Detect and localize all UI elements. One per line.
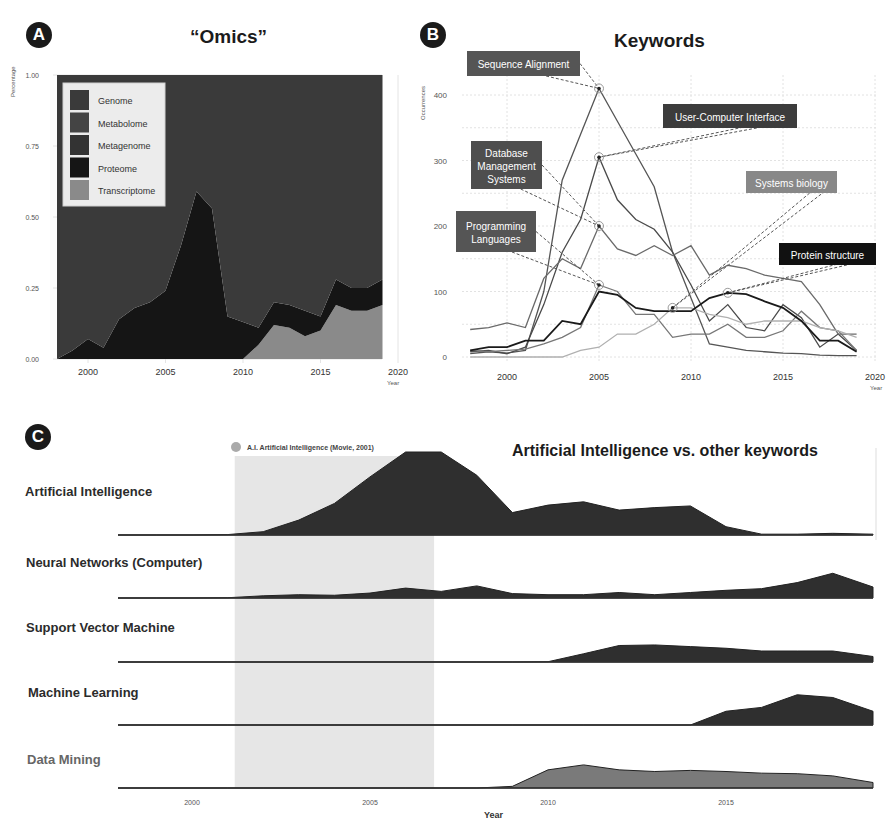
x-tick-label: 2005: [362, 799, 378, 806]
x-tick-label: 2015: [718, 799, 734, 806]
ridge-area-artificial-intelligence: [118, 452, 873, 535]
row-label-data-mining: Data Mining: [27, 752, 101, 767]
row-label-neural-networks: Neural Networks (Computer): [26, 555, 202, 570]
x-axis-label: Year: [484, 810, 504, 820]
ridge-area-machine-learning: [118, 695, 873, 725]
panel-c-title: Artificial Intelligence vs. other keywor…: [512, 442, 818, 460]
ai-keywords-ridgeline-chart: A.I. Artificial Intelligence (Movie, 200…: [0, 0, 896, 832]
movie-annotation-label: A.I. Artificial Intelligence (Movie, 200…: [247, 444, 374, 452]
row-label-artificial-intelligence: Artificial Intelligence: [25, 484, 152, 499]
row-label-machine-learning: Machine Learning: [28, 685, 139, 700]
ridge-area-data-mining: [118, 765, 873, 788]
movie-marker-dot: [231, 442, 241, 452]
ridge-area-neural-networks-computer: [118, 573, 873, 598]
x-tick-label: 2010: [540, 799, 556, 806]
ridge-area-support-vector-machine: [118, 645, 873, 662]
x-tick-label: 2000: [184, 799, 200, 806]
row-label-support-vector-machine: Support Vector Machine: [26, 620, 175, 635]
